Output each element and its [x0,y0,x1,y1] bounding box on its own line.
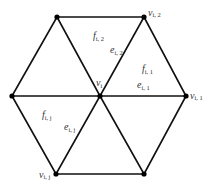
edge-top-right [144,17,186,96]
label-e-ij: ei, j [64,121,76,133]
label-e-i2: ei, 2 [110,44,123,56]
label-v-i: vi [96,77,102,89]
vertex-v-i [97,93,102,98]
spoke-bottom-right [100,96,144,174]
label-v-i1: vi, 1 [190,90,203,101]
label-f-i1: fi, 1 [142,63,153,75]
vertex-left [9,93,14,98]
triangle-mesh-diagram: vi vi, 2 vi, 1 vi, j fi, 2 ei, 2 fi, 1 e… [0,0,214,190]
vertex-top-left [54,14,59,19]
vertex-v-i1 [183,93,188,98]
label-f-i2: fi, 2 [93,30,104,42]
vertex-v-i2 [141,14,146,19]
label-v-i2: vi, 2 [148,7,161,18]
vertex-v-ij [53,171,58,176]
edge-bottom-right [144,96,186,174]
vertex-bottom-right [141,171,146,176]
edge-top-left [12,17,57,96]
label-e-i1: ei, 1 [137,79,150,91]
edge-e-ij [56,96,100,174]
edge-bottom-left [12,96,56,174]
label-f-ij: fi, j [42,109,52,121]
spoke-top-left [57,17,100,96]
label-v-ij: vi, j [39,169,51,180]
